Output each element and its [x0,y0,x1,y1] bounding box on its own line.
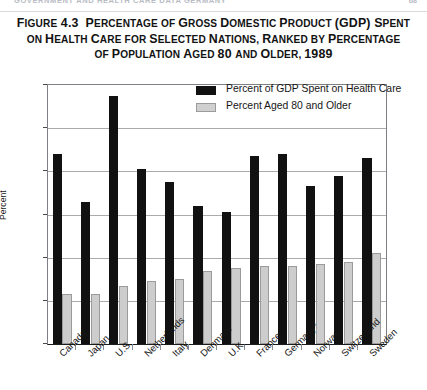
bar [137,169,146,344]
bar [175,279,184,344]
bar [250,156,259,344]
gridline [48,171,386,172]
bar [81,202,90,344]
bar [316,264,325,344]
page-number: 68 [409,0,417,5]
gridline [48,128,386,129]
bar [119,286,128,344]
legend-swatch [196,103,216,112]
bar [344,262,353,344]
figure-title: FIGURE 4.3 PERCENTAGE OF GROSS DOMESTIC … [16,16,411,63]
bar [260,266,269,344]
legend-label: Percent of GDP Spent on Health Care [226,83,401,94]
legend-swatch [196,86,216,95]
bar [203,271,212,344]
running-head-text: GOVERNMENT AND HEALTH CARE DATA GERMANY [14,0,226,5]
bar [334,176,343,344]
bar [147,281,156,344]
bar [231,268,240,344]
bar [288,266,297,344]
figure-title-line-3: OF POPULATION AGED 80 AND OLDER, 1989 [16,47,411,63]
y-axis-title: Percent [0,190,8,220]
header-divider [0,11,427,12]
plot-area [47,84,387,345]
bar [278,154,287,344]
figure-title-line-2: ON HEALTH CARE FOR SELECTED NATIONS, RAN… [16,32,411,48]
legend-label: Percent Aged 80 and Older [226,100,351,111]
bar-chart: Percent 024681012 CanadaJapanU.S.Netherl… [0,70,427,390]
chart-legend: Percent of GDP Spent on Health CarePerce… [196,84,384,120]
bar [109,96,118,344]
figure-title-line-1: FIGURE 4.3 PERCENTAGE OF GROSS DOMESTIC … [16,16,411,32]
bar [193,206,202,344]
bar [362,158,371,344]
bar [53,154,62,344]
running-head: GOVERNMENT AND HEALTH CARE DATA GERMANY … [0,0,427,11]
